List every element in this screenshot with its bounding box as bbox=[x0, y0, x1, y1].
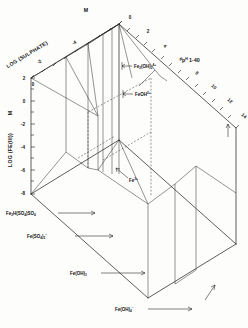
feso42-arrow-bot bbox=[109, 236, 113, 238]
feoh4-arrow-top bbox=[188, 307, 192, 309]
speciation-diagram-svg: -4 -2 0 LOG (SULPHATE) M 0 2 4 bbox=[0, 0, 248, 328]
species-label-fe2hso4: Fe2H(SO4)SO4 bbox=[6, 211, 36, 217]
feoh3-arrow-bot bbox=[141, 273, 145, 275]
sulphate-axis-group: -4 -2 0 LOG (SULPHATE) M bbox=[5, 7, 122, 87]
ph-tick-14-mark bbox=[236, 125, 239, 128]
sulphate-axis-unit: M bbox=[84, 7, 89, 13]
lower-mid-2 bbox=[88, 168, 98, 170]
ph-tick-4: 4 bbox=[162, 43, 168, 49]
ph-axis-title-sup: H bbox=[185, 57, 188, 61]
feoh-base: FeOH bbox=[135, 92, 147, 97]
lower-mid-4 bbox=[31, 152, 66, 194]
ph-end-arrow-b bbox=[228, 124, 230, 128]
species-label-feoh: FeOH2+ bbox=[135, 91, 151, 97]
top-right-boundary-4 bbox=[160, 76, 167, 81]
fe3-axis-title: LOG (FE(III)) bbox=[7, 133, 13, 167]
right-face-diag-2 bbox=[175, 166, 196, 184]
fe2hso4-mid: H(SO bbox=[13, 211, 25, 216]
fe3-tick-2: 2 bbox=[23, 76, 26, 81]
fe3-tick-minus-6: -6 bbox=[21, 168, 26, 173]
feoh3-sub1: 3 bbox=[85, 273, 87, 277]
sulphate-tick-minor-5 bbox=[42, 69, 45, 72]
ph-tick-2-mark bbox=[136, 35, 139, 38]
inner-slant-4 bbox=[88, 44, 98, 116]
feso42-arrow-top bbox=[109, 234, 113, 236]
ph-tick-minor-4 bbox=[178, 70, 181, 73]
ph-axis-line bbox=[119, 24, 236, 128]
fe3-tick-minus-4: -4 bbox=[21, 145, 26, 150]
sulphate-tick-minus-4: -4 bbox=[71, 39, 77, 46]
fe3-axis-unit: M bbox=[7, 111, 13, 116]
ph-tick-2: 2 bbox=[147, 29, 150, 34]
ph-tick-minor-5 bbox=[195, 84, 198, 87]
ph-tick-minor-1 bbox=[127, 28, 130, 31]
bottom-front-edge bbox=[31, 194, 148, 298]
sulphate-axis-title: LOG (SULPHATE) bbox=[5, 40, 49, 69]
right-face-diag-3 bbox=[148, 184, 175, 204]
fe2hso4-arrow-bot bbox=[91, 213, 95, 215]
ph-tick-14: 14 bbox=[240, 112, 247, 119]
ph-tick-12: 12 bbox=[226, 97, 233, 104]
ph-tick-0-mark bbox=[119, 21, 122, 24]
fe3-leader bbox=[116, 168, 128, 178]
sulphate-tick-zero: 0 bbox=[32, 82, 35, 87]
ph-tick-minor-2 bbox=[144, 42, 147, 45]
ph-tick-10-mark bbox=[203, 92, 206, 95]
species-label-feoh4-group: Fe(OH)4− bbox=[115, 306, 192, 313]
feoh4-sup: − bbox=[132, 306, 134, 310]
ph-end-arrow-a bbox=[226, 124, 228, 128]
species-label-feoh3-group: Fe(OH)3 bbox=[70, 271, 145, 277]
fe2oh2-arrow-bot bbox=[122, 66, 125, 68]
ph-tick-minor-6 bbox=[212, 99, 215, 102]
ph-axis-group: 0 2 4 6 8 10 12 14 pH1·40 bbox=[119, 15, 248, 128]
feoh3-base: Fe(OH) bbox=[70, 271, 86, 276]
species-label-feso42: Fe(SO4)2− bbox=[27, 233, 47, 240]
fe3-tick-0: 0 bbox=[23, 99, 26, 104]
sulphate-tick-minus-2: -2 bbox=[36, 58, 42, 65]
feoh-sup: 2+ bbox=[147, 91, 151, 95]
bottom-right-edge bbox=[148, 244, 236, 298]
ph-tick-8-mark bbox=[186, 77, 189, 80]
hidden-edge-4 bbox=[103, 132, 151, 160]
species-label-fe3: Fe3+ bbox=[129, 177, 138, 183]
fe2hso4-arrow-top bbox=[91, 211, 95, 213]
feso42-sup: − bbox=[45, 233, 47, 237]
species-label-fe3-group: Fe3+ bbox=[116, 168, 138, 183]
feoh4-arrow-bot bbox=[188, 309, 192, 311]
species-label-feoh-group: FeOH2+ bbox=[123, 90, 151, 98]
fe2oh2-mid: (OH) bbox=[141, 64, 151, 69]
bottom-right-arrow-line bbox=[205, 285, 215, 300]
ph-tick-12-mark bbox=[220, 107, 223, 110]
feoh-arrow-bot bbox=[123, 94, 126, 96]
top-right-boundary-2 bbox=[139, 70, 155, 86]
ph-tick-8: 8 bbox=[194, 70, 200, 76]
left-face-edge-2 bbox=[88, 34, 103, 44]
species-label-feoh4: Fe(OH)4− bbox=[115, 306, 134, 313]
ph-axis-title-value: 1·40 bbox=[189, 57, 200, 63]
mid-right-edge bbox=[119, 140, 236, 244]
bottom-right-arrow-group bbox=[205, 285, 215, 300]
ph-tick-4-mark bbox=[152, 49, 155, 52]
species-label-fe2oh2-group: Fe2(OH)24+ bbox=[122, 62, 156, 70]
feso42-base: Fe(SO bbox=[27, 234, 41, 239]
species-label-feoh3: Fe(OH)3 bbox=[70, 271, 87, 277]
ph-tick-0: 0 bbox=[129, 15, 132, 20]
ph-end-arrow-group bbox=[226, 124, 230, 137]
fe2hso4-sub3: 4 bbox=[34, 213, 36, 217]
feoh3-arrow-top bbox=[141, 271, 145, 273]
ph-axis-title: pH1·40 bbox=[182, 57, 200, 63]
left-face-edge-3 bbox=[103, 29, 112, 34]
hidden-edge-5 bbox=[78, 136, 115, 158]
fe3-tick-minus-8: -8 bbox=[21, 191, 26, 196]
ph-tick-6-mark bbox=[169, 63, 172, 66]
ph-tick-10: 10 bbox=[210, 83, 217, 90]
fe3-sup: 3+ bbox=[134, 177, 138, 181]
top-fan-line-4 bbox=[112, 24, 119, 29]
right-face-diag-1 bbox=[196, 166, 236, 193]
figure-container: -4 -2 0 LOG (SULPHATE) M 0 2 4 bbox=[0, 0, 248, 328]
left-face-edge-1 bbox=[66, 44, 88, 57]
species-label-fe2hso4-group: Fe2H(SO4)SO4 bbox=[6, 211, 95, 217]
fe3-tick-minus-2: -2 bbox=[21, 122, 26, 127]
species-label-feso42-group: Fe(SO4)2− bbox=[27, 233, 113, 240]
species-label-fe2oh2: Fe2(OH)24+ bbox=[134, 63, 156, 70]
